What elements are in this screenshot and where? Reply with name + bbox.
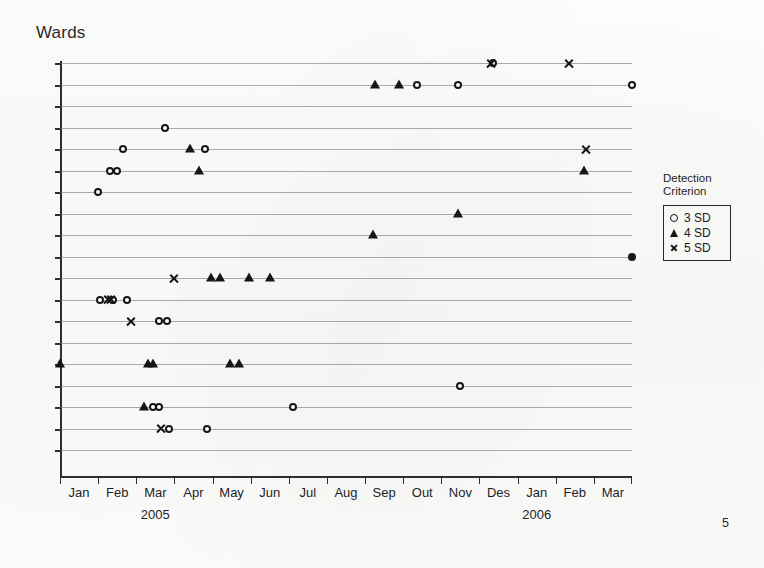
y-axis-tick: [55, 278, 61, 280]
y-axis-tick: [55, 343, 61, 345]
page-number: 5: [722, 516, 729, 530]
legend-item-5-sd[interactable]: 5 SD: [669, 240, 725, 255]
data-point: [123, 296, 131, 304]
x-axis-label-feb-13: Feb: [564, 485, 586, 500]
data-point: [244, 273, 254, 282]
x-axis-label-mar-14: Mar: [602, 485, 624, 500]
x-axis-tick: [251, 477, 252, 484]
data-point: [234, 359, 244, 368]
x-axis-label-jan-12: Jan: [526, 485, 547, 500]
legend-item-label: 4 SD: [684, 226, 711, 240]
x-axis-label-des-11: Des: [487, 485, 510, 500]
y-axis-tick: [55, 192, 61, 194]
x-axis-tick: [289, 477, 290, 484]
x-axis-label-nov-10: Nov: [449, 485, 472, 500]
y-axis-tick: [55, 386, 61, 388]
data-point: [206, 273, 216, 282]
x-axis-tick: [479, 477, 480, 484]
y-axis-line: [60, 61, 62, 478]
data-point: [185, 144, 195, 153]
legend-box: 3 SD4 SD5 SD: [663, 205, 731, 261]
data-point: [163, 317, 171, 325]
data-point: [161, 124, 169, 132]
y-axis-tick: [55, 300, 61, 302]
data-point: [201, 145, 209, 153]
y-axis-tick: [55, 63, 61, 65]
x-axis-tick: [556, 477, 557, 484]
data-point: [156, 423, 167, 434]
data-point: [368, 230, 378, 239]
triangle-icon: [669, 226, 683, 240]
data-point: [94, 188, 102, 196]
x-axis-label-aug-7: Aug: [334, 485, 357, 500]
x-axis-tick: [518, 477, 519, 484]
data-point: [581, 144, 592, 155]
data-point: [394, 79, 404, 88]
legend-item-3-sd[interactable]: 3 SD: [669, 210, 725, 225]
data-point: [203, 425, 211, 433]
gridline: [60, 450, 632, 451]
x-axis-year-label-2005: 2005: [141, 507, 170, 522]
data-point: [169, 273, 180, 284]
data-point: [215, 273, 225, 282]
x-axis-tick: [441, 477, 442, 484]
x-axis-tick: [60, 477, 61, 484]
data-point: [148, 359, 158, 368]
x-axis-tick: [98, 477, 99, 484]
gridline: [60, 343, 632, 344]
y-axis-tick: [55, 214, 61, 216]
data-point: [453, 208, 463, 217]
legend-title: Detection Criterion: [663, 172, 749, 198]
data-point: [106, 294, 117, 305]
page-title: Wards: [36, 23, 86, 43]
x-axis-label-mar-2: Mar: [144, 485, 166, 500]
legend: Detection Criterion 3 SD4 SD5 SD: [663, 172, 749, 261]
chart-plot-area: [60, 62, 632, 477]
data-point: [125, 316, 136, 327]
y-axis-tick: [55, 257, 61, 259]
x-axis-tick: [403, 477, 404, 484]
data-point: [194, 165, 204, 174]
gridline: [60, 300, 632, 301]
data-point: [155, 403, 163, 411]
data-point: [55, 359, 65, 368]
y-axis-tick: [55, 85, 61, 87]
x-axis-label-feb-1: Feb: [106, 485, 128, 500]
x-axis-tick: [213, 477, 214, 484]
gridline: [60, 149, 632, 150]
data-point: [628, 81, 636, 89]
y-axis-tick: [55, 106, 61, 108]
x-axis-year-label-2006: 2006: [522, 507, 551, 522]
legend-item-label: 3 SD: [684, 211, 711, 225]
data-point: [289, 403, 297, 411]
data-point: [370, 79, 380, 88]
gridline: [60, 192, 632, 193]
legend-item-label: 5 SD: [684, 241, 711, 255]
gridline: [60, 128, 632, 129]
data-point: [225, 359, 235, 368]
data-point: [628, 253, 636, 261]
y-axis-tick: [55, 450, 61, 452]
y-axis-tick: [55, 128, 61, 130]
legend-item-4-sd[interactable]: 4 SD: [669, 225, 725, 240]
data-point: [579, 165, 589, 174]
x-axis-tick: [631, 477, 632, 484]
gridline: [60, 171, 632, 172]
y-axis-tick: [55, 235, 61, 237]
x-axis-tick: [365, 477, 366, 484]
x-axis-tick: [594, 477, 595, 484]
y-axis-tick: [55, 149, 61, 151]
y-axis-tick: [55, 429, 61, 431]
x-axis-label-jul-6: Jul: [300, 485, 317, 500]
gridline: [60, 85, 632, 86]
data-point: [413, 81, 421, 89]
data-point: [113, 167, 121, 175]
x-axis-tick: [136, 477, 137, 484]
gridline: [60, 278, 632, 279]
x-axis-label-out-9: Out: [412, 485, 433, 500]
data-point: [485, 58, 496, 69]
x-axis-tick: [327, 477, 328, 484]
data-point: [119, 145, 127, 153]
x-axis-line: [60, 476, 632, 478]
y-axis-tick: [55, 321, 61, 323]
